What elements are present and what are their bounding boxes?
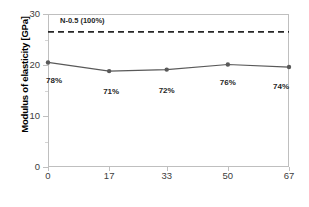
x-tick-label: 17 (94, 170, 124, 181)
x-tick-label: 33 (152, 170, 182, 181)
data-point-label: 76% (208, 78, 248, 87)
data-point-label: 78% (34, 76, 74, 85)
x-tick-label: 0 (33, 170, 63, 181)
x-tick-label: 67 (274, 170, 304, 181)
y-tick-label: 20 (14, 59, 40, 70)
data-point-label: 72% (147, 86, 187, 95)
x-tick-mark (48, 167, 49, 171)
chart-figure: Modulus of elasticity [GPa] 0102030 0173… (0, 0, 309, 207)
data-point-label: 71% (91, 87, 131, 96)
x-tick-mark (167, 167, 168, 171)
x-tick-mark (228, 167, 229, 171)
x-tick-mark (109, 167, 110, 171)
y-tick-label: 30 (14, 8, 40, 19)
data-point-label: 74% (261, 82, 301, 91)
reference-line-label: N-0.5 (100%) (60, 16, 105, 25)
x-tick-label: 50 (213, 170, 243, 181)
x-tick-mark (289, 167, 290, 171)
y-tick-label: 10 (14, 110, 40, 121)
y-axis-title: Modulus of elasticity [GPa] (19, 0, 30, 155)
